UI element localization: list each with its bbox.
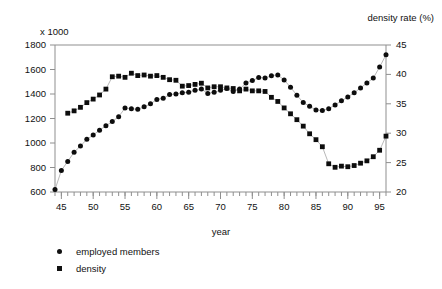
legend-item-density: density — [52, 260, 159, 277]
data-point — [301, 100, 306, 105]
data-point — [65, 159, 70, 164]
data-point — [91, 133, 96, 138]
data-point — [237, 88, 242, 93]
x-tick-55: 55 — [112, 201, 138, 212]
data-point — [269, 95, 274, 100]
x-tick-50: 50 — [80, 201, 106, 212]
data-point — [72, 108, 77, 113]
y-tick-left-1200: 1200 — [12, 113, 46, 124]
data-point — [84, 137, 89, 142]
x-tick-45: 45 — [48, 201, 74, 212]
y-tick-right-25: 25 — [396, 157, 422, 168]
x-tick-60: 60 — [144, 201, 170, 212]
x-tick-75: 75 — [239, 201, 265, 212]
chart-legend: employed members density — [52, 243, 159, 277]
data-point — [205, 86, 210, 91]
x-tick-80: 80 — [271, 201, 297, 212]
y-tick-right-45: 45 — [396, 39, 422, 50]
circle-marker-icon — [52, 249, 66, 254]
data-point — [301, 124, 306, 129]
data-point — [110, 119, 115, 124]
data-point — [352, 90, 357, 95]
data-point — [250, 78, 255, 83]
chart-container: x 1000 density rate (%) year 60080010001… — [0, 0, 442, 289]
data-point — [339, 164, 344, 169]
data-point — [345, 95, 350, 100]
data-point — [314, 137, 319, 142]
data-point — [294, 93, 299, 98]
square-marker-icon — [52, 266, 66, 271]
data-point — [148, 74, 153, 79]
data-point — [333, 165, 338, 170]
data-point — [123, 106, 128, 111]
y-tick-right-40: 40 — [396, 68, 422, 79]
data-point — [352, 163, 357, 168]
y-tick-left-1600: 1600 — [12, 64, 46, 75]
data-point — [59, 168, 64, 173]
data-point — [78, 144, 83, 149]
data-point — [193, 88, 198, 93]
data-point — [110, 74, 115, 79]
data-point — [53, 187, 58, 192]
data-point — [148, 101, 153, 106]
data-point — [123, 75, 128, 80]
data-point — [199, 87, 204, 92]
data-point — [103, 123, 108, 128]
data-point — [135, 73, 140, 78]
data-point — [384, 52, 389, 57]
data-point — [84, 100, 89, 105]
data-point — [288, 85, 293, 90]
data-point — [186, 90, 191, 95]
data-point — [97, 93, 102, 98]
data-point — [320, 144, 325, 149]
data-point — [231, 86, 236, 91]
data-point — [167, 92, 172, 97]
y-tick-right-35: 35 — [396, 98, 422, 109]
x-tick-95: 95 — [367, 201, 393, 212]
data-point — [104, 87, 109, 92]
y-tick-left-600: 600 — [12, 186, 46, 197]
data-point — [256, 88, 261, 93]
legend-label-density: density — [76, 263, 106, 274]
data-point — [91, 97, 96, 102]
data-point — [212, 90, 217, 95]
data-point — [275, 99, 280, 104]
data-point — [320, 108, 325, 113]
data-point — [142, 104, 147, 109]
data-point — [263, 76, 268, 81]
data-point — [345, 164, 350, 169]
data-point — [365, 158, 370, 163]
data-point — [364, 80, 369, 85]
data-point — [97, 128, 102, 133]
data-point — [282, 77, 287, 82]
data-point — [72, 150, 77, 155]
data-point — [65, 111, 70, 116]
data-point — [384, 134, 389, 139]
data-point — [339, 98, 344, 103]
y-tick-right-30: 30 — [396, 127, 422, 138]
series-markers-employed-members — [53, 52, 389, 192]
data-point — [154, 73, 159, 78]
x-tick-65: 65 — [176, 201, 202, 212]
data-point — [78, 105, 83, 110]
data-point — [275, 73, 280, 78]
data-point — [167, 77, 172, 82]
data-point — [142, 73, 147, 78]
data-point — [244, 87, 249, 92]
data-point — [173, 92, 178, 97]
x-tick-90: 90 — [335, 201, 361, 212]
data-point — [256, 75, 261, 80]
data-point — [174, 78, 179, 83]
data-point — [269, 73, 274, 78]
data-point — [326, 161, 331, 166]
x-tick-85: 85 — [303, 201, 329, 212]
data-point — [180, 84, 185, 89]
data-point — [263, 89, 268, 94]
data-point — [282, 106, 287, 111]
data-point — [161, 96, 166, 101]
data-point — [161, 75, 166, 80]
data-point — [116, 114, 121, 119]
data-point — [212, 84, 217, 89]
data-point — [205, 91, 210, 96]
data-point — [377, 148, 382, 153]
